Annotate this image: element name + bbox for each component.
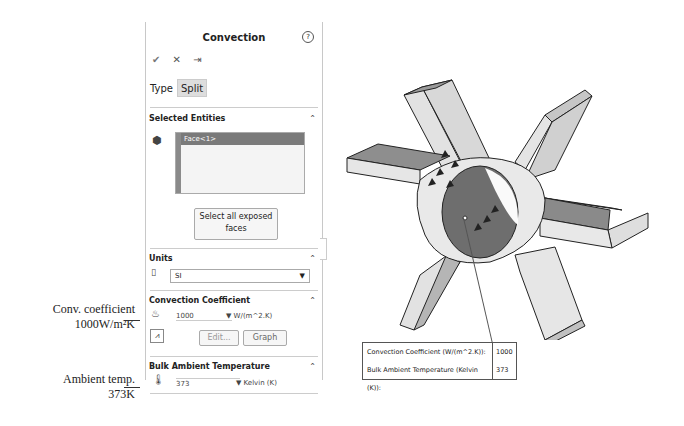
convection-coefficient-header: Convection Coefficient	[149, 296, 250, 305]
edit-button[interactable]: Edit...	[199, 330, 239, 346]
impeller-model-view[interactable]	[340, 40, 680, 340]
callout-row: Convection Coefficient (W/(m^2.K)): 1000	[363, 343, 516, 361]
tab-bar: Type Split	[146, 79, 207, 97]
annotation-leader	[124, 320, 140, 321]
annotation-line: 1000W/m²K	[10, 317, 135, 332]
graph-icon[interactable]: ⩘	[150, 329, 164, 343]
collapse-caret-icon[interactable]: ⌃	[309, 114, 316, 123]
divider	[150, 290, 318, 291]
annotation-line: 373K	[10, 387, 135, 402]
convection-property-panel: Convection ? ✔ ✕ ⇥ Type Split Selected E…	[145, 22, 323, 380]
conv-coefficient-annotation: Conv. coefficient 1000W/m²K	[10, 302, 135, 332]
pin-icon[interactable]: ⇥	[193, 54, 201, 65]
callout-label: Bulk Ambient Temperature (Kelvin (K)):	[363, 361, 493, 379]
callout-label: Convection Coefficient (W/(m^2.K)):	[363, 343, 493, 361]
units-icon: ▯	[151, 267, 156, 277]
callout-value: 373	[493, 361, 508, 379]
units-value: SI	[175, 272, 182, 280]
units-header: Units	[149, 254, 173, 263]
coefficient-unit-value: W/(m^2.K)	[234, 312, 273, 320]
divider	[150, 393, 318, 394]
coefficient-unit-select[interactable]: ▼ W/(m^2.K)	[226, 312, 272, 320]
cancel-x-icon[interactable]: ✕	[173, 54, 181, 65]
convection-coefficient-input[interactable]: 1000	[176, 312, 232, 321]
temperature-unit-value: Kelvin (K)	[244, 379, 277, 387]
annotation-line: Conv. coefficient	[10, 302, 135, 317]
callout-row: Bulk Ambient Temperature (Kelvin (K)): 3…	[363, 361, 516, 379]
ambient-temperature-input[interactable]: 373	[176, 378, 240, 388]
collapse-caret-icon[interactable]: ⌃	[309, 362, 316, 371]
boundary-condition-callout: Convection Coefficient (W/(m^2.K)): 1000…	[362, 342, 517, 380]
temperature-unit-select[interactable]: ▼ Kelvin (K)	[236, 379, 277, 387]
callout-value: 1000	[493, 343, 513, 361]
annotation-line: Ambient temp.	[10, 372, 135, 387]
dropdown-arrow-icon: ▼	[300, 270, 305, 282]
collapse-caret-icon[interactable]: ⌃	[309, 296, 316, 305]
list-item[interactable]: Face<1>	[181, 133, 304, 145]
divider	[150, 356, 318, 357]
divider	[150, 248, 318, 249]
ambient-temp-annotation: Ambient temp. 373K	[10, 372, 135, 402]
selected-entities-header: Selected Entities	[149, 114, 225, 123]
panel-title: Convection	[146, 32, 322, 43]
ok-check-icon[interactable]: ✔	[152, 54, 160, 65]
convection-icon: ♨	[151, 308, 160, 319]
collapse-caret-icon[interactable]: ⌃	[309, 254, 316, 263]
tab-split[interactable]: Split	[177, 79, 207, 97]
face-cube-icon: ⬢	[152, 134, 162, 147]
help-icon[interactable]: ?	[302, 31, 314, 43]
annotation-leader	[124, 387, 140, 388]
units-select[interactable]: SI ▼	[170, 269, 310, 283]
selected-entities-list[interactable]: Face<1>	[175, 132, 305, 194]
select-all-exposed-faces-button[interactable]: Select all exposed faces	[194, 208, 278, 240]
divider	[150, 107, 318, 108]
bulk-ambient-temperature-header: Bulk Ambient Temperature	[149, 362, 270, 371]
tab-type[interactable]: Type	[146, 79, 177, 97]
panel-splitter-handle[interactable]	[320, 238, 327, 260]
thermometer-icon: 🌡	[152, 374, 165, 385]
graph-button[interactable]: Graph	[243, 330, 287, 346]
action-bar: ✔ ✕ ⇥	[152, 54, 211, 65]
